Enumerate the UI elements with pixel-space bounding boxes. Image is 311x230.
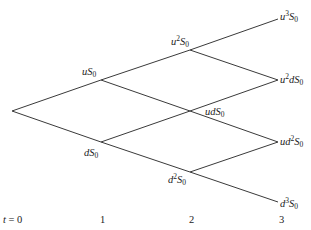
time-label-0: t = 0 — [3, 214, 22, 225]
node-label-dd2: d2S0 — [168, 172, 186, 187]
binomial-tree-diagram: uS0dS0u2S0udS0d2S0u3S0u2dS0ud2S0d3S0 t =… — [0, 0, 311, 230]
tree-edge-u1-ud2 — [101, 80, 190, 111]
node-label-uud3: u2dS0 — [280, 72, 304, 87]
tree-edge-ud2-uud3 — [190, 80, 278, 111]
tree-edge-dd2-ddd3 — [190, 172, 278, 202]
node-label-ddd3: d3S0 — [280, 196, 298, 211]
time-label-2: 2 — [189, 214, 194, 225]
time-axis: t = 0123 — [3, 214, 284, 225]
node-label-d1: dS0 — [84, 147, 99, 160]
node-label-uuu3: u3S0 — [280, 9, 298, 24]
tree-edge-d1-dd2 — [101, 142, 190, 172]
node-label-u1: uS0 — [82, 66, 97, 79]
tree-edge-ud2-udd3 — [190, 111, 278, 142]
node-label-udd3: ud2S0 — [280, 134, 304, 149]
tree-edge-u1-uu2 — [101, 50, 190, 80]
tree-edge-n0-d1 — [12, 111, 101, 142]
time-label-3: 3 — [279, 214, 284, 225]
tree-edge-n0-u1 — [12, 80, 101, 111]
tree-edge-uu2-uud3 — [190, 50, 278, 80]
time-label-1: 1 — [100, 214, 105, 225]
tree-edge-uu2-uuu3 — [190, 19, 278, 50]
tree-edge-d1-ud2 — [101, 111, 190, 142]
tree-edge-dd2-udd3 — [190, 142, 278, 172]
tree-edges — [12, 19, 278, 202]
node-label-uu2: u2S0 — [171, 34, 189, 49]
